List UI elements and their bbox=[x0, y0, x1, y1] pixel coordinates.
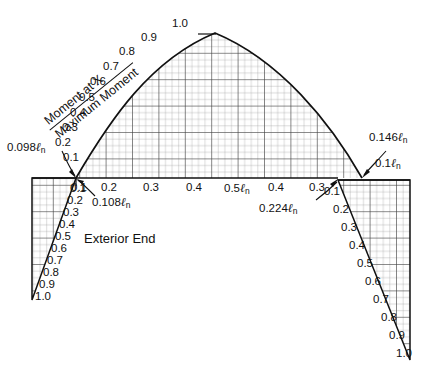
positive-moment-area bbox=[60, 20, 380, 190]
curve-label-0-5: 0.5 bbox=[79, 92, 95, 104]
right-tri-label-1-0: 1.0 bbox=[396, 348, 412, 360]
moment-envelope-figure: Moment at X Maximum Moment 0.1 0.2 0.3 0… bbox=[0, 0, 435, 374]
curve-label-0-2: 0.2 bbox=[55, 137, 71, 149]
left-tri-label-0-7: 0.7 bbox=[47, 255, 63, 267]
curve-label-1-0: 1.0 bbox=[172, 18, 188, 30]
annotation-left-span: 0.098ℓn bbox=[7, 141, 46, 154]
curve-label-0-1: 0.1 bbox=[63, 152, 79, 164]
annotation-left-span-sub: n bbox=[41, 145, 46, 155]
right-tri-label-0-4: 0.4 bbox=[349, 240, 365, 252]
annotation-right-inner-value: 0.224 bbox=[259, 202, 288, 214]
left-tri-label-0-8: 0.8 bbox=[43, 267, 59, 279]
annotation-left-span-value: 0.098 bbox=[7, 141, 36, 153]
right-tri-label-0-3: 0.3 bbox=[341, 222, 357, 234]
right-tri-label-0-1: 0.1 bbox=[324, 186, 340, 198]
right-tri-label-0-5: 0.5 bbox=[357, 258, 373, 270]
annotation-right-span-sub: n bbox=[403, 135, 408, 145]
curve-label-0-8: 0.8 bbox=[119, 46, 135, 58]
x-tick-center-value: 0.5 bbox=[224, 182, 240, 194]
x-tick-left-0-4: 0.4 bbox=[186, 182, 202, 194]
annotation-right-edge: 0.1ℓn bbox=[375, 157, 401, 170]
left-tri-label-0-6: 0.6 bbox=[51, 243, 67, 255]
left-tri-label-0-4: 0.4 bbox=[59, 219, 75, 231]
annotation-right-edge-value: 0.1 bbox=[375, 157, 391, 169]
curve-label-0-3: 0.3 bbox=[62, 122, 78, 134]
left-tri-label-0-5: 0.5 bbox=[55, 231, 71, 243]
figure-canvas bbox=[0, 0, 435, 374]
left-tri-label-0-9: 0.9 bbox=[39, 279, 55, 291]
x-tick-center: 0.5ℓn bbox=[224, 182, 250, 195]
annotation-left-inner-value: 0.108 bbox=[92, 196, 121, 208]
left-tri-label-0-2: 0.2 bbox=[67, 195, 83, 207]
x-tick-left-0-3: 0.3 bbox=[143, 182, 159, 194]
annotation-right-span-value: 0.146 bbox=[369, 131, 398, 143]
annotation-right-span: 0.146ℓn bbox=[369, 131, 408, 144]
annotation-right-edge-sub: n bbox=[396, 161, 401, 171]
annotation-right-inner-sub: n bbox=[293, 206, 298, 216]
left-tri-label-0-1: 0.1 bbox=[70, 183, 86, 195]
curve-label-0-9: 0.9 bbox=[141, 32, 157, 44]
right-tri-label-0-7: 0.7 bbox=[373, 294, 389, 306]
left-tri-label-0-3: 0.3 bbox=[63, 207, 79, 219]
x-tick-left-0-2: 0.2 bbox=[101, 182, 117, 194]
curve-label-0-4: 0.4 bbox=[70, 107, 86, 119]
x-tick-right-0-3: 0.3 bbox=[309, 182, 325, 194]
span-length-subscript: n bbox=[245, 186, 250, 196]
annotation-left-inner-sub: n bbox=[126, 200, 131, 210]
curve-label-0-7: 0.7 bbox=[103, 61, 119, 73]
right-tri-label-0-6: 0.6 bbox=[365, 276, 381, 288]
leader-left-span-arrowhead bbox=[69, 169, 76, 178]
exterior-end-caption: Exterior End bbox=[84, 232, 156, 245]
right-tri-label-0-8: 0.8 bbox=[381, 312, 397, 324]
curve-label-0-6: 0.6 bbox=[90, 76, 106, 88]
x-tick-right-0-4: 0.4 bbox=[268, 182, 284, 194]
annotation-left-inner: 0.108ℓn bbox=[92, 196, 131, 209]
annotation-right-inner: 0.224ℓn bbox=[259, 202, 298, 215]
left-tri-label-1-0: 1.0 bbox=[35, 291, 51, 303]
right-tri-label-0-9: 0.9 bbox=[389, 330, 405, 342]
right-tri-label-0-2: 0.2 bbox=[333, 204, 349, 216]
